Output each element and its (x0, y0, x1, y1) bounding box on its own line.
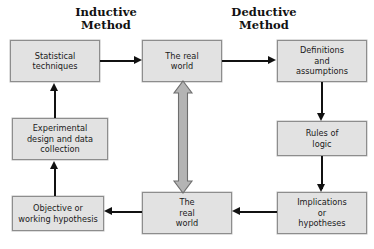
node-objective-working-hypothesis[interactable]: Objective or working hypothesis (12, 196, 104, 231)
node-statistical-techniques[interactable]: Statistical techniques (10, 40, 100, 82)
node-real-world-bottom[interactable]: The real world (142, 192, 232, 234)
node-rules-of-logic[interactable]: Rules of logic (277, 121, 367, 156)
connector-realworld-double-arrow (172, 80, 194, 194)
node-real-world-top[interactable]: The real world (142, 40, 222, 82)
diagram-canvas: Inductive Method Deductive Method Statis… (0, 0, 374, 249)
title-inductive-method: Inductive Method (63, 6, 149, 31)
title-deductive-method: Deductive Method (219, 6, 309, 31)
node-implications-or-hypotheses[interactable]: Implications or hypotheses (277, 192, 367, 234)
node-definitions-and-assumptions[interactable]: Definitions and assumptions (277, 40, 367, 82)
node-experimental-design[interactable]: Experimental design and data collection (12, 118, 108, 160)
